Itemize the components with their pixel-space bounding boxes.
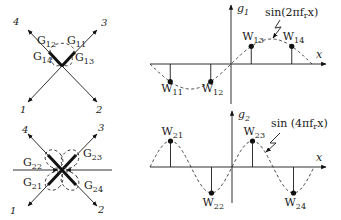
plot-g2: W21W22W23W24 g2 x sin (4πfrx) — [150, 108, 328, 211]
x-axis-label: x — [316, 151, 323, 164]
gain-label-g12: G12 — [37, 34, 56, 49]
gain-label-g23: G23 — [83, 147, 102, 162]
port-label-4: 4 — [21, 124, 28, 135]
function-annotation: sin (4πfrx) — [271, 117, 328, 131]
y-axis-label: g2 — [238, 108, 250, 123]
x-axis-label: x — [316, 48, 323, 61]
sample-point — [291, 190, 296, 195]
port-label-2: 2 — [97, 204, 104, 215]
function-annotation: sin(2πfrx) — [265, 6, 318, 20]
port-label-3: 3 — [101, 17, 107, 28]
sample-label: W23 — [244, 125, 266, 140]
sample-point — [209, 190, 214, 195]
sample-label: W11 — [161, 82, 183, 97]
sample-points: W21W22W23W24 — [162, 125, 307, 211]
figure: 4 3 1 2 G12 G11 G14 G13 4 3 1 2 G22 G23 … — [0, 0, 341, 220]
port-label-4: 4 — [12, 16, 19, 27]
gain-label-g11: G11 — [67, 34, 86, 49]
port-label-1: 1 — [20, 104, 26, 115]
arm-2 — [62, 66, 97, 102]
annotation-pointer — [273, 20, 281, 38]
sample-label: W12 — [202, 82, 224, 97]
annotation-pointer — [266, 133, 280, 152]
sample-label: W21 — [162, 125, 184, 140]
gain-label-g22: G22 — [23, 156, 42, 171]
sample-label: W22 — [203, 196, 225, 211]
port-label-2: 2 — [95, 104, 102, 115]
thick-segment-3 — [62, 52, 75, 66]
port-label-3: 3 — [98, 122, 104, 133]
cross-diagram-1: 4 3 1 2 G12 G11 G14 G13 — [12, 16, 107, 115]
y-axis-label: g1 — [237, 2, 249, 17]
sample-label: W14 — [283, 30, 305, 45]
gain-label-g24: G24 — [84, 179, 103, 194]
gain-label-g21: G21 — [23, 176, 42, 191]
cross-diagram-2: 4 3 1 2 G22 G23 G21 G24 — [10, 122, 112, 216]
arm-1 — [28, 66, 62, 102]
sample-label: W24 — [285, 196, 307, 211]
plot-g1: W11W12W13W14 g1 x sin(2πfrx) — [150, 2, 326, 104]
port-label-1: 1 — [10, 205, 16, 216]
gain-label-g13: G13 — [75, 51, 94, 66]
sample-label: W13 — [242, 30, 264, 45]
